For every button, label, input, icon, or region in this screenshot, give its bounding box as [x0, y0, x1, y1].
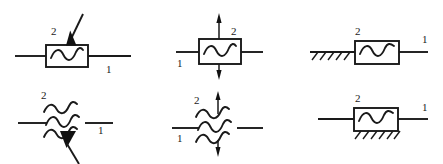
label-terminal-2-bottom-right: 2: [355, 92, 361, 104]
arrow-down-head-bottom-middle: [216, 147, 221, 157]
symbol-bottom-left: 2 1: [18, 89, 113, 164]
actuator-shaft-bottom-left: [67, 143, 80, 164]
wave-glyph-bottom-right: [359, 111, 393, 123]
hatching-left-top-right: [312, 52, 350, 60]
symbol-bottom-right: 2 1: [318, 92, 428, 139]
label-terminal-2-top-right: 2: [355, 25, 361, 37]
figure-canvas: 2 1 2 1: [0, 0, 443, 164]
wave-glyph-middle-bottom-left: [46, 115, 79, 127]
arrow-up-head-top-middle: [216, 13, 221, 23]
label-terminal-1-top-right: 1: [422, 33, 428, 45]
symbol-bottom-middle: 2 1: [172, 91, 263, 157]
schematic-symbols-figure: 2 1 2 1: [0, 0, 443, 164]
label-terminal-1-bottom-right: 1: [422, 101, 428, 113]
label-terminal-1-top-middle: 1: [177, 57, 183, 69]
arrow-down-head-top-middle: [216, 70, 221, 80]
label-terminal-2-bottom-left: 2: [41, 89, 47, 101]
wave-glyph-upper-bottom-middle: [196, 107, 229, 118]
arrow-up-head-bottom-middle: [216, 91, 221, 100]
wave-glyph-middle-bottom-middle: [198, 120, 231, 132]
hatching-bottom-bottom-right: [355, 131, 400, 139]
symbol-top-middle: 2 1: [176, 13, 263, 80]
wave-glyph-top-right: [360, 44, 394, 56]
wave-glyph-upper-bottom-left: [44, 102, 77, 113]
wave-glyph-top-middle: [204, 44, 236, 56]
wave-glyph-lower-bottom-middle: [196, 132, 229, 143]
label-terminal-1-bottom-middle: 1: [177, 132, 183, 144]
symbol-top-right: 2 1: [310, 25, 428, 64]
symbol-top-left: 2 1: [15, 14, 131, 75]
label-terminal-2-top-middle: 2: [231, 25, 237, 37]
label-terminal-1-top-left: 1: [106, 63, 112, 75]
label-terminal-1-bottom-left: 1: [98, 124, 104, 136]
label-terminal-2-bottom-middle: 2: [194, 94, 200, 106]
label-terminal-2-top-left: 2: [51, 25, 57, 37]
wave-glyph-top-left: [51, 48, 83, 60]
